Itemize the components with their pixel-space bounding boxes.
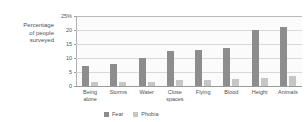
x-tick-label: Height: [246, 89, 274, 96]
y-tick-label: 25%: [52, 13, 72, 19]
x-tick-label: Flying: [189, 89, 217, 96]
bar-group: [246, 16, 274, 86]
bar-phobia: [261, 78, 268, 86]
x-axis-categories: Being aloneStormsWaterClose spacesFlying…: [76, 89, 302, 107]
legend-label: Fear: [112, 111, 123, 117]
y-tick-label: 20: [52, 27, 72, 33]
bar-fear: [139, 58, 146, 86]
bar-fear: [82, 66, 89, 86]
bar-group: [161, 16, 189, 86]
x-tick-label: Blood: [217, 89, 245, 96]
bar-fear: [223, 48, 230, 86]
x-tick-label: Water: [133, 89, 161, 96]
bars-layer: [76, 16, 302, 86]
bar-fear: [252, 30, 259, 86]
y-axis-title-line-3: surveyed: [2, 37, 54, 45]
y-tick-label: 0: [52, 83, 72, 89]
bar-group: [189, 16, 217, 86]
y-axis-title-line-1: Percentage: [2, 22, 54, 30]
x-tick-label: Animals: [274, 89, 302, 96]
y-tick-label: 5: [52, 69, 72, 75]
y-tick-label: 10: [52, 55, 72, 61]
bar-phobia: [204, 80, 211, 86]
legend: FearPhobia: [104, 111, 158, 117]
bar-group: [104, 16, 132, 86]
bar-phobia: [289, 76, 296, 86]
bar-phobia: [91, 82, 98, 86]
legend-item[interactable]: Phobia: [133, 111, 158, 117]
y-tick-label: 15: [52, 41, 72, 47]
bar-fear: [195, 50, 202, 86]
bar-group: [133, 16, 161, 86]
bar-phobia: [148, 82, 155, 86]
legend-item[interactable]: Fear: [104, 111, 123, 117]
bar-fear: [167, 51, 174, 86]
y-axis-title: Percentage of people surveyed: [2, 22, 54, 45]
bar-group: [274, 16, 302, 86]
bar-fear: [280, 27, 287, 86]
x-axis-line: [76, 86, 302, 87]
bar-phobia: [232, 79, 239, 86]
legend-swatch-icon: [133, 112, 138, 117]
y-axis-title-line-2: of people: [2, 30, 54, 38]
bar-phobia: [119, 82, 126, 86]
y-tick-mark: [74, 86, 76, 87]
legend-swatch-icon: [104, 112, 109, 117]
bar-group: [76, 16, 104, 86]
legend-label: Phobia: [141, 111, 158, 117]
bar-phobia: [176, 80, 183, 86]
x-tick-label: Storms: [104, 89, 132, 96]
bar-group: [217, 16, 245, 86]
bar-fear: [110, 64, 117, 86]
bar-chart: Percentage of people surveyed 25%2015105…: [0, 0, 308, 122]
x-tick-label: Being alone: [76, 89, 104, 102]
x-tick-label: Close spaces: [161, 89, 189, 102]
